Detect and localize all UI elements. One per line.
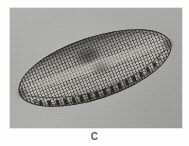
figure-label: C <box>0 131 189 143</box>
figure-panel: C <box>0 0 189 146</box>
micrograph-image <box>10 8 182 128</box>
